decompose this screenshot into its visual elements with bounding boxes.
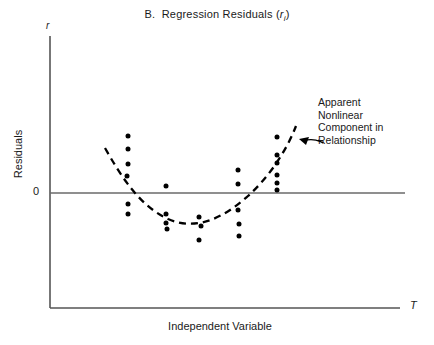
annotation-arrow: [299, 137, 323, 145]
data-point: [275, 153, 280, 158]
data-point: [236, 182, 241, 187]
data-point: [197, 238, 202, 243]
data-point: [275, 181, 280, 186]
fit-curve-dashed: [105, 126, 296, 224]
data-point: [126, 212, 131, 217]
data-point: [275, 173, 280, 178]
data-point: [197, 215, 202, 220]
data-point: [275, 135, 280, 140]
data-point: [275, 188, 280, 193]
regression-residuals-figure: B. Regression Residuals (ri) Residuals I…: [0, 0, 434, 345]
data-point: [126, 147, 131, 152]
data-point: [126, 202, 131, 207]
data-point: [236, 168, 241, 173]
data-point: [164, 212, 169, 217]
data-point: [164, 184, 169, 189]
axes-group: [50, 36, 405, 308]
data-point: [126, 134, 131, 139]
data-point: [164, 221, 169, 226]
plot-canvas: [0, 0, 434, 345]
data-point: [236, 208, 241, 213]
data-point: [126, 162, 131, 167]
data-point: [125, 174, 130, 179]
data-point: [199, 224, 204, 229]
data-point: [237, 234, 242, 239]
data-point: [237, 222, 242, 227]
data-point: [275, 161, 280, 166]
data-point: [165, 227, 170, 232]
